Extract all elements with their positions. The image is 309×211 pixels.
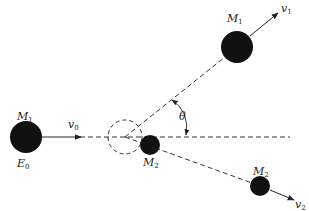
ball-m1-initial bbox=[10, 121, 42, 153]
label-e0: E0 bbox=[16, 157, 30, 171]
label-m2-initial: M2 bbox=[142, 156, 159, 170]
trajectory-m1-dashed bbox=[125, 57, 225, 137]
label-v2: v2 bbox=[295, 198, 306, 211]
label-v1: v1 bbox=[281, 2, 292, 16]
ball-m2-initial bbox=[140, 135, 160, 155]
collision-diagram: θ M1 E0 v0 M2 M1 v1 M2 v2 bbox=[0, 0, 309, 211]
arrow-v1 bbox=[250, 13, 278, 36]
ball-m1-final bbox=[221, 31, 253, 63]
arrow-v2 bbox=[270, 190, 294, 200]
theta-label: θ bbox=[179, 110, 186, 123]
label-v0: v0 bbox=[68, 118, 79, 132]
label-m1-final: M1 bbox=[226, 12, 243, 26]
label-m1-initial: M1 bbox=[16, 110, 33, 124]
ball-m2-final bbox=[250, 176, 270, 196]
label-m2-final: M2 bbox=[252, 165, 269, 179]
